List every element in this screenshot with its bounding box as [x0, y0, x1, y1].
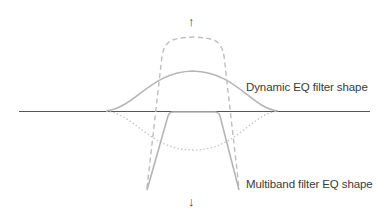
arrow-up-icon: ↑: [188, 15, 195, 28]
multiband-cut-curve: [147, 112, 239, 190]
multiband-eq-label: Multiband filter EQ shape: [246, 178, 373, 190]
dynamic-eq-label: Dynamic EQ filter shape: [246, 81, 368, 93]
dynamic-eq-cut-curve: [106, 111, 278, 150]
arrow-down-icon: ↓: [188, 195, 195, 208]
